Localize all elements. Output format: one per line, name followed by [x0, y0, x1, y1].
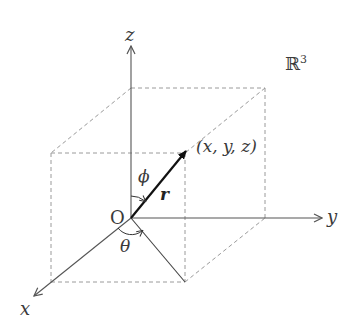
xy-projection-line — [131, 218, 185, 282]
x-axis — [34, 218, 131, 296]
phi-arc — [131, 196, 145, 201]
spherical-coordinates-diagram: z y x ℝ3 (x, y, z) O r ϕ θ — [0, 0, 360, 327]
y-axis-label: y — [327, 208, 337, 226]
z-axis-label: z — [125, 26, 134, 44]
axes — [34, 46, 322, 296]
origin-label: O — [110, 209, 125, 227]
theta-arc — [118, 228, 142, 235]
space-symbol: ℝ — [285, 53, 300, 74]
diagram-graphics — [0, 0, 360, 327]
space-exponent: 3 — [300, 53, 307, 66]
theta-angle-label: θ — [120, 238, 130, 255]
x-axis-label: x — [20, 300, 30, 318]
vector-r-label: r — [160, 186, 169, 203]
point-label: (x, y, z) — [196, 138, 257, 155]
phi-angle-label: ϕ — [138, 168, 150, 185]
space-label: ℝ3 — [285, 54, 307, 73]
